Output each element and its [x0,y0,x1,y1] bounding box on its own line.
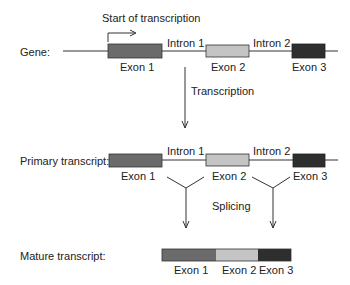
splicing-label: Splicing [212,200,251,212]
gene-exon-2-label: Exon 2 [211,61,245,73]
primary-row [109,154,338,167]
primary-exon-3 [293,154,325,167]
gene-exon-3 [292,44,325,58]
primary-exon-2-label: Exon 2 [212,170,246,182]
primary-transcript-label: Primary transcript: [20,155,109,167]
mature-exon-1 [162,249,216,261]
mature-exon-2-label: Exon 2 [222,264,256,276]
primary-exon-3-label: Exon 3 [293,170,327,182]
mature-exon-3 [258,249,291,261]
primary-exon-1 [109,154,162,167]
start-of-transcription-label: Start of transcription [102,12,200,24]
gene-exon-1 [108,44,162,58]
gene-exon-2 [206,45,249,57]
mature-exon-1-label: Exon 1 [174,264,208,276]
gene-intron-1-label: Intron 1 [167,37,204,49]
primary-exon-2 [206,154,249,166]
mature-exon-2 [216,249,258,261]
transcription-label: Transcription [191,85,254,97]
start-arrow-icon [108,33,135,42]
gene-exon-3-label: Exon 3 [292,61,326,73]
primary-exon-1-label: Exon 1 [121,170,155,182]
gene-label: Gene: [20,46,50,58]
mature-row [162,249,291,261]
mature-transcript-label: Mature transcript: [20,250,106,262]
transcription-arrow-icon [182,67,188,128]
primary-intron-1-label: Intron 1 [167,145,204,157]
gene-intron-2-label: Intron 2 [253,37,290,49]
mature-exon-3-label: Exon 3 [259,264,293,276]
gene-exon-1-label: Exon 1 [120,61,154,73]
primary-intron-2-label: Intron 2 [253,145,290,157]
